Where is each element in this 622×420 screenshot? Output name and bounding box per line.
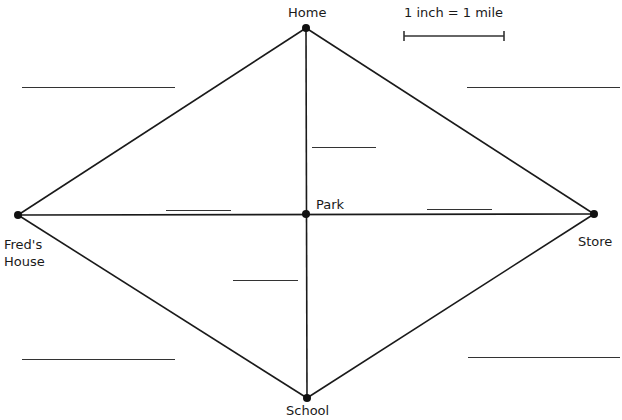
answer-blank-freds-park[interactable] — [166, 210, 231, 211]
node-home-dot — [302, 24, 310, 32]
edge-store-school — [307, 214, 594, 398]
node-label-park: Park — [316, 196, 344, 213]
node-freds-house-dot — [14, 211, 22, 219]
node-label-store: Store — [578, 233, 612, 250]
answer-blank-park-school[interactable] — [233, 280, 298, 281]
answer-blank-home-park[interactable] — [312, 147, 376, 148]
node-label-school: School — [286, 402, 329, 419]
node-label-home: Home — [288, 4, 326, 21]
answer-blank-freds-school[interactable] — [22, 359, 175, 360]
node-label-freds-house: Fred's House — [4, 236, 64, 270]
node-park-dot — [302, 210, 310, 218]
node-store-dot — [590, 210, 598, 218]
answer-blank-home-freds[interactable] — [22, 87, 175, 88]
answer-blank-home-store[interactable] — [467, 87, 620, 88]
node-label-freds-house-line1: Fred's — [4, 236, 64, 253]
answer-blank-store-school[interactable] — [468, 357, 620, 358]
scale-label: 1 inch = 1 mile — [404, 4, 503, 21]
node-school-dot — [303, 394, 311, 402]
edge-home-freds-house — [18, 28, 306, 215]
node-label-freds-house-line2: House — [4, 253, 64, 270]
edge-home-store — [306, 28, 594, 214]
answer-blank-park-store[interactable] — [427, 209, 492, 210]
scale-bar — [404, 31, 504, 41]
